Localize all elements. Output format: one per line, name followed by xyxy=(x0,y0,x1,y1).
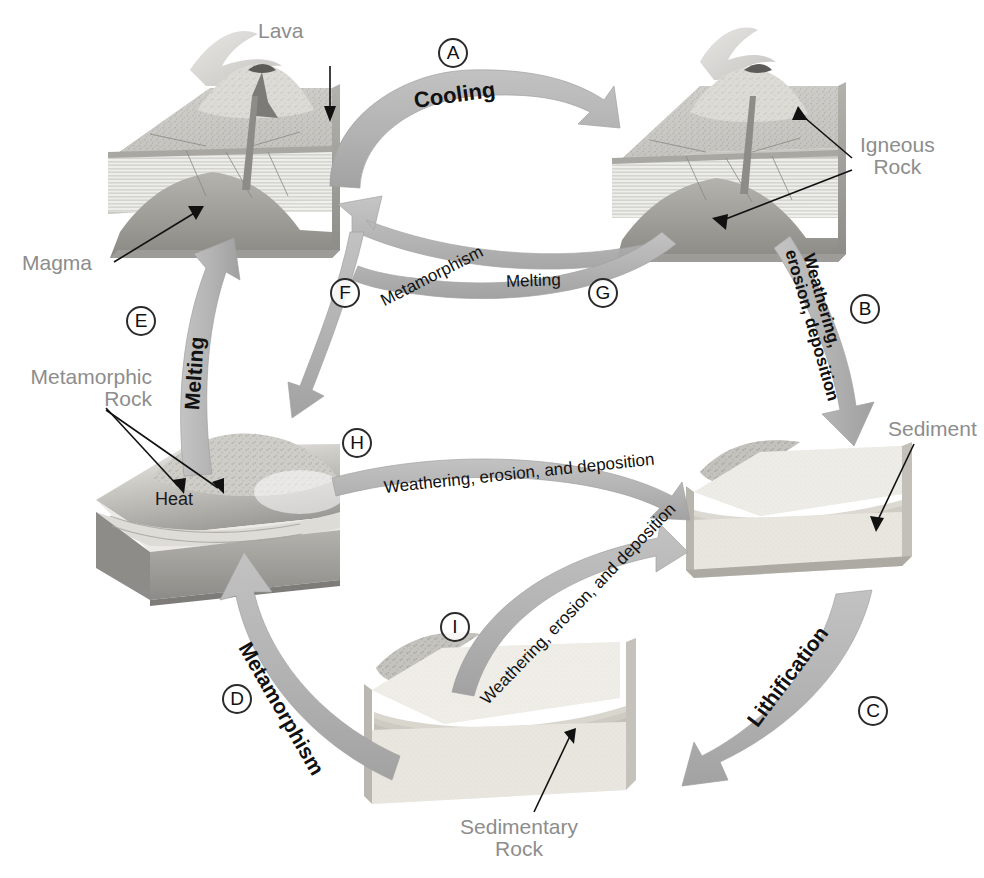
key-circle-c[interactable]: C xyxy=(858,696,888,726)
key-circle-d[interactable]: D xyxy=(222,684,252,714)
label-magma: Magma xyxy=(22,252,92,274)
label-sedimentary-rock: Sedimentary Rock xyxy=(444,816,594,860)
key-circle-i[interactable]: I xyxy=(440,612,470,642)
arrow-label-melting-e: Melting xyxy=(180,336,209,411)
block-sediment xyxy=(686,440,912,578)
arrow-label-melting-g: Melting xyxy=(506,270,561,292)
key-circle-h[interactable]: H xyxy=(342,428,372,458)
rock-cycle-diagram: Lava Magma Igneous Rock Metamorphic Rock… xyxy=(0,0,984,878)
key-circle-b[interactable]: B xyxy=(850,294,880,324)
diagram-canvas xyxy=(0,0,984,878)
label-sediment: Sediment xyxy=(888,418,977,440)
key-circle-f[interactable]: F xyxy=(330,278,360,308)
key-circle-e[interactable]: E xyxy=(126,306,156,336)
block-sedimentary xyxy=(364,632,636,804)
key-circle-g[interactable]: G xyxy=(588,278,618,308)
label-heat: Heat xyxy=(155,490,193,509)
block-metamorphic xyxy=(96,433,346,606)
block-igneous-right xyxy=(612,28,846,262)
label-metamorphic-rock: Metamorphic Rock xyxy=(22,366,152,410)
key-circle-a[interactable]: A xyxy=(438,38,468,68)
label-igneous-rock: Igneous Rock xyxy=(860,134,935,178)
block-igneous-left xyxy=(108,31,340,258)
label-lava: Lava xyxy=(258,20,304,42)
